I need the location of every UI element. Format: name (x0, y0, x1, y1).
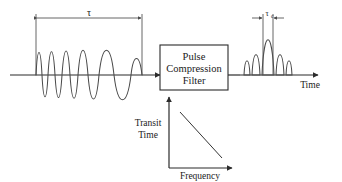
tau-label: τ (87, 7, 91, 18)
transit-time-label-line1: Transit (135, 118, 162, 128)
figure-canvas: τ Pulse Compression Filter (0, 0, 342, 182)
filter-label-line2: Compression (166, 63, 222, 74)
filter-label-line1: Pulse (183, 51, 206, 62)
filter-block-group[interactable]: Pulse Compression Filter (160, 45, 228, 90)
transit-time-label-line2: Time (138, 130, 158, 140)
transit-time-plot-group: Transit Time Frequency (135, 97, 232, 181)
input-signal-group: τ (10, 7, 160, 100)
output-lobe-3-main (262, 40, 274, 75)
output-lobe-2 (252, 55, 260, 75)
filter-label-line3: Filter (183, 75, 206, 86)
transit-time-trend-line (180, 112, 222, 158)
tauc-label: τ (265, 9, 269, 18)
output-lobe-4 (276, 55, 284, 75)
time-axis-label: Time (300, 80, 320, 90)
output-signal-group: τ c Time (240, 9, 320, 90)
output-lobe-1 (244, 61, 250, 75)
frequency-label: Frequency (180, 171, 220, 181)
output-lobe-5 (286, 61, 292, 75)
tauc-label-subscript: c (271, 13, 274, 19)
pulse-compression-diagram: τ Pulse Compression Filter (0, 0, 342, 182)
